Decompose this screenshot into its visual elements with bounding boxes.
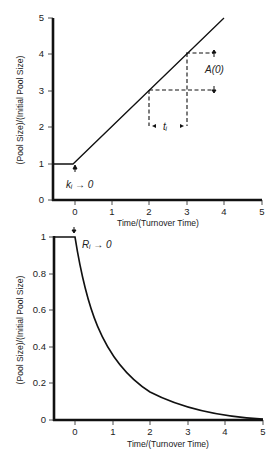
top-y-axis-label: (Pool Size)/(Initial Pool Size): [15, 55, 25, 164]
bottom-y-tick-0.8: 0.8: [33, 268, 46, 279]
bottom-x-tick-3: 3: [185, 426, 190, 437]
top-x-tick-5: 5: [259, 206, 264, 217]
top-chart: 5 4 3 2 1 0 0 1 2 3 4 5 Time/(Turnover T…: [15, 12, 265, 228]
top-y-tick-4: 4: [39, 48, 44, 59]
top-series-line: [53, 18, 224, 164]
arrow-marker-icon: [212, 86, 216, 93]
bottom-chart: 1 0.8 0.6 0.4 0.2 0 0 1 2 3 4 5 Time/(Tu…: [15, 227, 266, 449]
bottom-x-axis-label: Time/(Turnover Time): [127, 439, 209, 449]
annotation-A0: A(0): [204, 64, 224, 75]
figure: 5 4 3 2 1 0 0 1 2 3 4 5 Time/(Turnover T…: [0, 0, 279, 454]
top-y-tick-5: 5: [39, 12, 44, 23]
bottom-x-tick-4: 4: [222, 426, 227, 437]
top-x-tick-4: 4: [221, 206, 226, 217]
bottom-x-tick-5: 5: [260, 426, 265, 437]
top-x-tick-0: 0: [72, 206, 77, 217]
bottom-y-tick-0.2: 0.2: [33, 377, 46, 388]
bottom-series-curve: [54, 237, 263, 419]
arrow-marker-icon: [72, 227, 76, 233]
bottom-x-tick-2: 2: [147, 426, 152, 437]
top-markers: [73, 50, 216, 172]
top-x-axis-label: Time/(Turnover Time): [117, 218, 199, 228]
arrow-marker-icon: [73, 165, 77, 172]
arrow-marker-icon: [152, 124, 156, 128]
top-y-tick-1: 1: [39, 158, 44, 169]
top-x-tick-1: 1: [109, 206, 114, 217]
bottom-y-tick-1: 1: [41, 231, 46, 242]
annotation-t: tᵢ: [163, 121, 168, 132]
annotation-R: Rᵢ → 0: [82, 239, 112, 250]
bottom-y-axis-label: (Pool Size)/(Initial Pool Size): [15, 275, 25, 384]
bottom-x-tick-1: 1: [110, 426, 115, 437]
arrow-marker-icon: [180, 124, 184, 128]
top-y-tick-3: 3: [39, 85, 44, 96]
bottom-y-tick-0.4: 0.4: [33, 341, 46, 352]
top-x-tick-2: 2: [146, 206, 151, 217]
arrow-marker-icon: [212, 50, 216, 57]
annotation-k: kᵢ → 0: [66, 179, 94, 190]
top-y-tick-0: 0: [39, 194, 44, 205]
top-y-tick-2: 2: [39, 121, 44, 132]
bottom-y-tick-0: 0: [41, 414, 46, 425]
bottom-x-tick-0: 0: [72, 426, 77, 437]
top-x-tick-3: 3: [184, 206, 189, 217]
bottom-y-tick-0.6: 0.6: [33, 304, 46, 315]
